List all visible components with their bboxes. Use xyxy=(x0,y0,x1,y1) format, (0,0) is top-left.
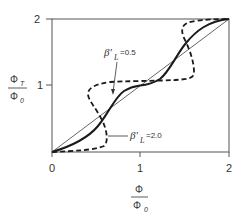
x-label-denominator-sub: 0 xyxy=(144,206,148,213)
y-label-denominator: Φ xyxy=(10,91,18,102)
y-label-denominator-sub: 0 xyxy=(20,97,24,104)
annotation-beta-2-0-sub: L xyxy=(139,136,145,145)
x-label-numerator: Φ xyxy=(135,184,143,195)
x-tick-2: 2 xyxy=(226,162,232,174)
x-tick-1: 1 xyxy=(137,162,143,174)
y-label-numerator-sub: T xyxy=(20,80,25,87)
annotation-beta-0-5-sub: L xyxy=(113,53,119,62)
annotation-beta-0-5-value: =0.5 xyxy=(120,48,136,57)
x-label-denominator: Φ xyxy=(133,200,141,211)
y-tick-2: 2 xyxy=(34,13,40,25)
annotation-beta-2-0-symbol: β' xyxy=(129,129,138,141)
y-label-numerator: Φ xyxy=(10,74,18,85)
x-axis-label: Φ Φ 0 xyxy=(131,184,148,213)
annotation-beta-0-5-symbol: β' xyxy=(103,46,112,58)
annotation-beta-2-0: β' L =2.0 xyxy=(108,129,162,145)
flux-chart: 0 1 2 1 2 Φ Φ 0 Φ T Φ 0 β' L =0.5 β' L =… xyxy=(0,0,246,224)
x-tick-0: 0 xyxy=(49,162,55,174)
y-tick-1: 1 xyxy=(37,79,43,91)
y-axis-label: Φ T Φ 0 xyxy=(8,74,27,104)
annotation-beta-2-0-value: =2.0 xyxy=(146,131,162,140)
